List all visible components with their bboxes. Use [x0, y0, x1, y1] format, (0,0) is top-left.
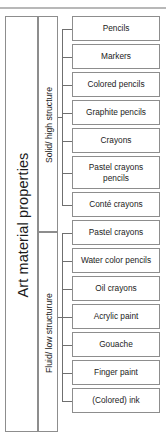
item-box: Gouache	[72, 332, 160, 357]
item-box: Acrylic paint	[72, 304, 160, 329]
connector-stub	[62, 401, 72, 402]
item-label: Conté crayons	[89, 199, 143, 209]
item-label: Pencils	[103, 23, 130, 33]
item-label: Markers	[101, 51, 131, 61]
item-label: Finger paint	[94, 367, 138, 377]
item-box: Crayons	[72, 128, 160, 153]
item-box: Conté crayons	[72, 192, 160, 217]
item-label: Colored pencils	[87, 79, 144, 89]
item-box: Markers	[72, 44, 160, 69]
item-box: Colored pencils	[72, 72, 160, 97]
item-label: (Colored) ink	[92, 395, 140, 405]
connector-group-spur-1	[58, 317, 63, 318]
item-box: Finger paint	[72, 360, 160, 385]
connector-stub	[62, 173, 72, 174]
item-label: Pastel crayons	[89, 227, 143, 237]
connector-stub	[62, 373, 72, 374]
connector-stub	[62, 205, 72, 206]
connector-group-spur-0	[58, 117, 63, 118]
diagram-title: Art material properties	[6, 17, 39, 433]
item-box: Pencils	[72, 16, 160, 41]
item-label: Oil crayons	[95, 283, 137, 293]
diagram-title-container: Art material properties	[5, 16, 38, 432]
item-label: Water color pencils	[81, 255, 151, 265]
connector-stub	[62, 233, 72, 234]
connector-stub	[62, 29, 72, 30]
item-box: Graphite pencils	[72, 100, 160, 125]
group-label-solid-text: Solid/ high structure	[39, 17, 59, 233]
item-box: Pastel crayonspencils	[72, 156, 160, 189]
item-box: (Colored) ink	[72, 388, 160, 413]
group-label-fluid-low-structure: Fluid/ low structurure	[38, 232, 58, 432]
group-label-fluid-text: Fluid/ low structurure	[39, 233, 59, 433]
item-label: Gouache	[99, 339, 133, 349]
connector-stub	[62, 289, 72, 290]
connector-stub	[62, 113, 72, 114]
item-label: Crayons	[101, 135, 132, 145]
item-box: Water color pencils	[72, 248, 160, 273]
connector-stub	[62, 317, 72, 318]
item-box: Pastel crayons	[72, 220, 160, 245]
connector-stub	[62, 345, 72, 346]
connector-stub	[62, 261, 72, 262]
connector-stub	[62, 141, 72, 142]
art-material-properties-diagram: Art material properties Solid/ high stru…	[0, 0, 166, 445]
item-label: Graphite pencils	[86, 107, 146, 117]
group-label-solid-high-structure: Solid/ high structure	[38, 16, 58, 232]
connector-stub	[62, 57, 72, 58]
item-label: Pastel crayonspencils	[89, 162, 143, 183]
item-box: Oil crayons	[72, 276, 160, 301]
item-label: Acrylic paint	[94, 311, 139, 321]
connector-stub	[62, 85, 72, 86]
top-divider-rule	[0, 7, 166, 9]
